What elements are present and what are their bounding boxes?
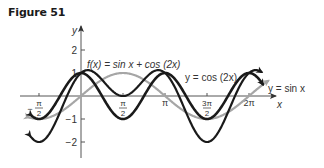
x-tick-label: 3π2 [202, 99, 212, 118]
f-label-text: f(x) = sin x + cos (2x) [87, 59, 180, 70]
sin-label-text: y = sin x [268, 83, 305, 94]
svg-text:2: 2 [205, 109, 210, 118]
svg-text:π: π [36, 99, 42, 108]
y-tick-label: 2 [71, 45, 77, 56]
svg-text:π: π [120, 99, 126, 108]
svg-text:3π: 3π [202, 99, 212, 108]
x-tick-label: π2 [119, 99, 127, 118]
sin-curve-label: y = sin x [268, 83, 305, 94]
svg-text:2: 2 [37, 109, 42, 118]
f-curve-label: f(x) = sin x + cos (2x) [87, 59, 180, 70]
x-tick-label: π [162, 98, 168, 108]
svg-text:π: π [162, 98, 168, 108]
y-axis-label: y [71, 25, 78, 36]
chart-plot: π2−π2π3π22π21−1−2 y x f(x) = sin x + cos… [0, 0, 324, 168]
svg-text:−: − [27, 104, 32, 114]
cos-curve-label: y = cos (2x) [185, 72, 237, 83]
x-axis-label: x [276, 99, 283, 110]
svg-text:2: 2 [121, 109, 126, 118]
y-tick-label: −2 [66, 137, 78, 148]
x-tick-label: π2− [27, 99, 43, 118]
cos-label-text: y = cos (2x) [185, 72, 237, 83]
y-tick-label: −1 [66, 114, 78, 125]
